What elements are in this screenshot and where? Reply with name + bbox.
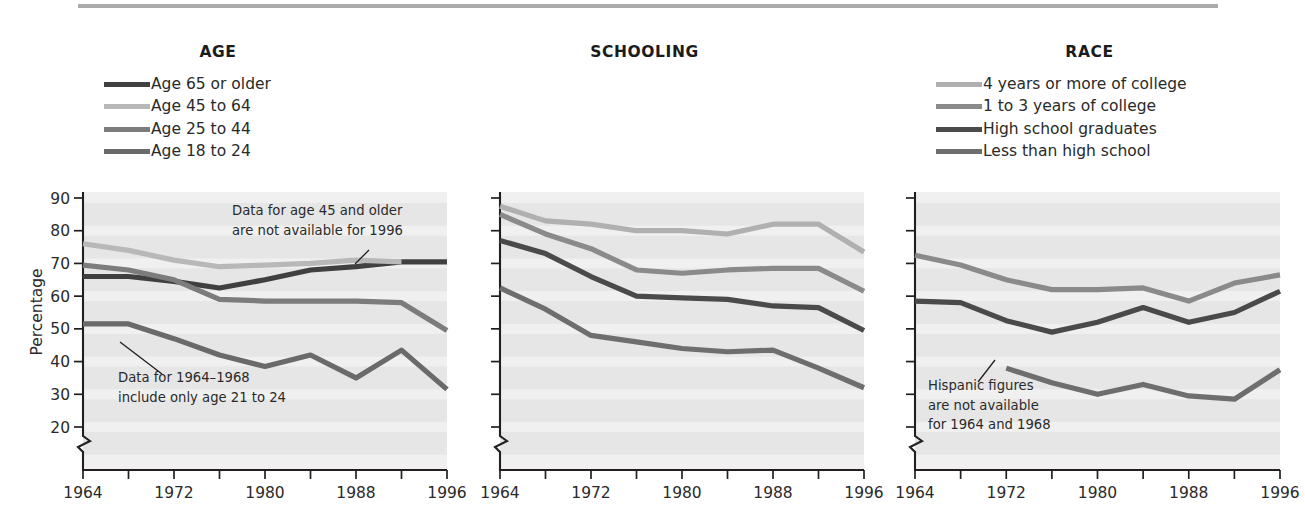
grid-band [83, 236, 447, 259]
x-tick-label: 1996 [1260, 484, 1299, 502]
annotation-line: Data for age 45 and older [232, 203, 403, 218]
x-tick-label: 1980 [245, 484, 284, 502]
annotation-line: for 1964 and 1968 [928, 417, 1051, 432]
x-tick-label: 1980 [1078, 484, 1117, 502]
grid-band [500, 399, 864, 422]
annot-hispanic-missing: Hispanic figuresare not availablefor 196… [928, 378, 1051, 432]
x-tick-label: 1972 [987, 484, 1026, 502]
y-tick-label: 40 [50, 353, 70, 371]
plot-background [500, 192, 864, 470]
x-tick-label: 1988 [753, 484, 792, 502]
grid-band [83, 432, 447, 455]
grid-band [500, 432, 864, 455]
y-tick-label: 30 [50, 386, 70, 404]
x-tick-label: 1980 [662, 484, 701, 502]
annotation-line: Data for 1964–1968 [118, 370, 250, 385]
annotation-line: include only age 21 to 24 [118, 390, 286, 405]
grid-band [500, 334, 864, 357]
grid-band [915, 203, 1280, 226]
y-tick-label: 50 [50, 320, 70, 338]
y-tick-label: 70 [50, 255, 70, 273]
x-tick-label: 1988 [1169, 484, 1208, 502]
y-tick-label: 60 [50, 288, 70, 306]
x-tick-label: 1972 [154, 484, 193, 502]
x-tick-label: 1988 [336, 484, 375, 502]
x-tick-label: 1996 [427, 484, 466, 502]
grid-band [915, 236, 1280, 259]
annotation-line: are not available [928, 398, 1039, 413]
grid-band [915, 334, 1280, 357]
y-tick-label: 80 [50, 222, 70, 240]
x-tick-label: 1972 [571, 484, 610, 502]
multi-panel-line-chart: 1964197219801988199620304050607080901964… [0, 0, 1305, 522]
y-tick-label: 20 [50, 419, 70, 437]
x-tick-label: 1996 [844, 484, 883, 502]
annotation-line: Hispanic figures [928, 378, 1034, 393]
y-axis-title: Percentage [28, 268, 46, 355]
x-tick-label: 1964 [480, 484, 519, 502]
x-tick-label: 1964 [895, 484, 934, 502]
y-tick-label: 90 [50, 190, 70, 208]
panel-plot-schooling: 19641972198019881996 [480, 192, 883, 502]
grid-band [915, 432, 1280, 455]
annotation-line: are not available for 1996 [232, 223, 403, 238]
panel-plot-race: 19641972198019881996 [895, 192, 1299, 502]
x-tick-label: 1964 [63, 484, 102, 502]
grid-band [500, 367, 864, 390]
